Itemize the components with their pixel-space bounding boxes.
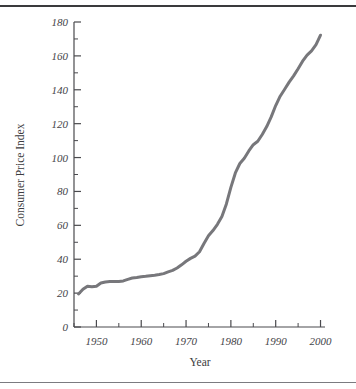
y-axis-tick-labels: 020406080100120140160180 — [52, 16, 69, 333]
y-tick-label: 140 — [52, 84, 69, 96]
y-tick-label: 20 — [57, 287, 69, 299]
x-axis-tick-labels: 195019601970198019902000 — [85, 335, 332, 347]
y-tick-label: 120 — [52, 118, 69, 130]
x-tick-label: 1970 — [175, 335, 198, 347]
y-tick-label: 40 — [57, 253, 69, 265]
y-tick-label: 0 — [63, 321, 69, 333]
y-tick-label: 160 — [52, 50, 69, 62]
y-axis-title: Consumer Price Index — [14, 123, 26, 226]
line-chart: 020406080100120140160180 195019601970198… — [0, 0, 356, 389]
x-tick-label: 1960 — [130, 335, 153, 347]
y-tick-label: 100 — [52, 152, 69, 164]
x-tick-label: 1950 — [85, 335, 108, 347]
y-tick-label: 180 — [52, 16, 69, 28]
data-line-consumer-price-index — [78, 35, 320, 294]
y-tick-label: 60 — [57, 219, 69, 231]
x-tick-label: 1990 — [265, 335, 288, 347]
x-tick-label: 2000 — [310, 335, 333, 347]
figure-container: 020406080100120140160180 195019601970198… — [0, 0, 356, 389]
x-tick-label: 1980 — [220, 335, 243, 347]
x-axis-title: Year — [189, 356, 210, 368]
y-tick-label: 80 — [57, 185, 69, 197]
